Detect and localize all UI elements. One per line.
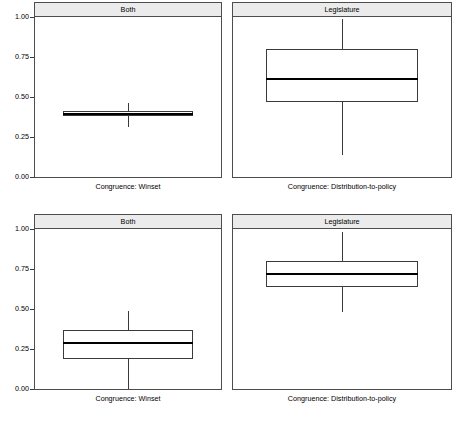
plot-area xyxy=(34,17,222,178)
box-median-line xyxy=(63,342,193,344)
y-tick-label: 1.00 xyxy=(15,224,29,234)
x-axis-label: Congruence: Distribution-to-policy xyxy=(232,180,452,194)
panel-row-bottom: 1.000.750.500.250.00 Both Congruence: Wi… xyxy=(0,212,459,424)
y-tick-label: 0.50 xyxy=(15,304,29,314)
box-whisker-upper xyxy=(128,311,129,330)
boxplot-glyph xyxy=(35,229,221,389)
boxplot-figure: 1.000.750.500.250.00 Both Congruence: Wi… xyxy=(0,0,459,424)
strip-header: Legislature xyxy=(232,2,452,17)
strip-label: Legislature xyxy=(324,6,359,13)
box-whisker-upper xyxy=(342,19,343,49)
panel-both-winset-top: Both xyxy=(34,2,222,178)
strip-header: Both xyxy=(34,2,222,17)
plot-area xyxy=(34,229,222,390)
strip-label: Both xyxy=(121,6,136,13)
box-whisker-upper xyxy=(128,103,129,111)
strip-header: Both xyxy=(34,214,222,229)
y-tick-label: 0.50 xyxy=(15,92,29,102)
y-axis-top: 1.000.750.500.250.00 xyxy=(0,0,34,212)
y-tick-label: 0.00 xyxy=(15,172,29,182)
strip-label: Both xyxy=(121,218,136,225)
box-median-line xyxy=(63,113,193,115)
panel-both-winset-bottom: Both xyxy=(34,214,222,390)
box-whisker-lower xyxy=(128,359,129,389)
x-axis-label: Congruence: Distribution-to-policy xyxy=(232,392,452,406)
y-tick-label: 0.75 xyxy=(15,52,29,62)
y-tick-label: 0.00 xyxy=(15,384,29,394)
y-tick-label: 0.25 xyxy=(15,132,29,142)
strip-label: Legislature xyxy=(324,218,359,225)
box-iqr xyxy=(63,330,193,360)
box-whisker-lower xyxy=(342,102,343,155)
boxplot-glyph xyxy=(233,229,451,389)
boxplot-glyph xyxy=(35,17,221,177)
x-axis-label: Congruence: Winset xyxy=(34,392,222,406)
panel-legislature-dist-top: Legislature xyxy=(232,2,452,178)
panel-legislature-dist-bottom: Legislature xyxy=(232,214,452,390)
boxplot-glyph xyxy=(233,17,451,177)
box-median-line xyxy=(266,273,419,275)
box-whisker-lower xyxy=(128,116,129,127)
y-tick-label: 0.75 xyxy=(15,264,29,274)
box-iqr xyxy=(266,49,419,102)
x-axis-label: Congruence: Winset xyxy=(34,180,222,194)
y-tick-label: 0.25 xyxy=(15,344,29,354)
y-tick-label: 1.00 xyxy=(15,12,29,22)
plot-area xyxy=(232,229,452,390)
box-whisker-lower xyxy=(342,287,343,312)
box-median-line xyxy=(266,78,419,80)
box-whisker-upper xyxy=(342,232,343,261)
y-axis-bottom: 1.000.750.500.250.00 xyxy=(0,212,34,424)
strip-header: Legislature xyxy=(232,214,452,229)
panel-row-top: 1.000.750.500.250.00 Both Congruence: Wi… xyxy=(0,0,459,212)
plot-area xyxy=(232,17,452,178)
